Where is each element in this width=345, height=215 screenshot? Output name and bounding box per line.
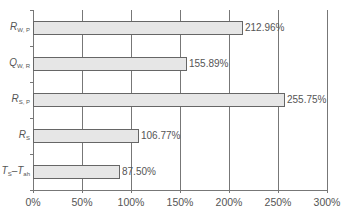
- category-label: RS: [0, 129, 30, 141]
- y-tick: [30, 190, 33, 191]
- category-label: QW, R: [0, 57, 30, 69]
- y-tick: [30, 82, 33, 83]
- gridline: [327, 10, 328, 191]
- bar: [33, 129, 139, 143]
- bar-value-label: 106.77%: [141, 130, 180, 141]
- y-tick: [30, 118, 33, 119]
- x-axis: [33, 190, 327, 191]
- y-tick: [30, 46, 33, 47]
- y-tick: [30, 10, 33, 11]
- x-tick-label: 50%: [62, 196, 102, 208]
- x-tick: [327, 190, 328, 193]
- bar: [33, 21, 243, 35]
- bar: [33, 165, 120, 179]
- x-tick-label: 300%: [307, 196, 345, 208]
- bar-value-label: 255.75%: [287, 94, 326, 105]
- category-label: TS–Tah: [0, 165, 30, 177]
- x-tick-label: 100%: [111, 196, 151, 208]
- bar-value-label: 212.96%: [245, 22, 284, 33]
- bar-value-label: 155.89%: [189, 58, 228, 69]
- bar: [33, 93, 285, 107]
- bar: [33, 57, 187, 71]
- x-tick-label: 200%: [209, 196, 249, 208]
- x-tick-label: 150%: [160, 196, 200, 208]
- x-tick-label: 0%: [13, 196, 53, 208]
- y-tick: [30, 154, 33, 155]
- x-tick-label: 250%: [258, 196, 298, 208]
- bar-value-label: 87.50%: [122, 166, 156, 177]
- category-label: RS, P: [0, 93, 30, 105]
- category-label: RW, P: [0, 21, 30, 33]
